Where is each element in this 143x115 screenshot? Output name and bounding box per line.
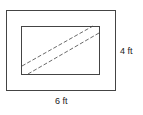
width-label: 6 ft [55, 96, 68, 106]
rectangle-diagram [0, 0, 143, 115]
dashed-line-upper [22, 26, 93, 66]
inner-rectangle [22, 27, 100, 75]
height-label: 4 ft [120, 46, 133, 56]
dashed-line-lower [28, 33, 99, 74]
